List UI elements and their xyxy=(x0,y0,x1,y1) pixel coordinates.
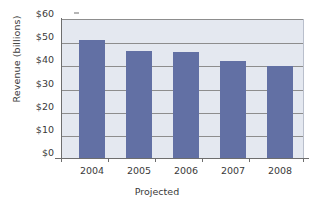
x-tick-label-2006: 2006 xyxy=(164,165,208,176)
y-tick-label-60: $60 xyxy=(18,8,54,19)
x-tick-mark-3 xyxy=(202,158,203,162)
y-tick-label-20: $20 xyxy=(18,100,54,111)
plot-right-edge xyxy=(303,19,304,158)
bar-2004 xyxy=(79,40,105,159)
x-tick-label-2005: 2005 xyxy=(117,165,161,176)
bar-2007 xyxy=(220,61,246,159)
x-tick-label-2008: 2008 xyxy=(258,165,302,176)
x-axis-title: Projected xyxy=(0,186,314,197)
bar-2005 xyxy=(126,51,152,159)
plot-area xyxy=(61,19,303,159)
bar-chart-figure: Revenue (billions) $60 $50 $40 $30 $20 $… xyxy=(0,0,314,208)
y-axis-line xyxy=(61,18,62,159)
x-tick-label-2004: 2004 xyxy=(70,165,114,176)
y-tick-label-50: $50 xyxy=(18,31,54,42)
x-tick-mark-4 xyxy=(249,158,250,162)
x-tick-mark-0 xyxy=(61,158,62,162)
x-axis-line xyxy=(55,158,309,159)
y-tick-mark-60 xyxy=(74,13,79,14)
y-axis-tick-labels: $60 $50 $40 $30 $20 $10 $0 xyxy=(18,13,54,159)
x-tick-mark-2 xyxy=(155,158,156,162)
y-tick-label-30: $30 xyxy=(18,77,54,88)
y-tick-label-10: $10 xyxy=(18,123,54,134)
bar-2008 xyxy=(267,66,293,159)
bar-2006 xyxy=(173,52,199,159)
x-tick-label-2007: 2007 xyxy=(211,165,255,176)
y-tick-label-40: $40 xyxy=(18,54,54,65)
x-tick-mark-5 xyxy=(303,158,304,162)
y-tick-label-0: $0 xyxy=(18,147,54,158)
x-tick-mark-1 xyxy=(108,158,109,162)
